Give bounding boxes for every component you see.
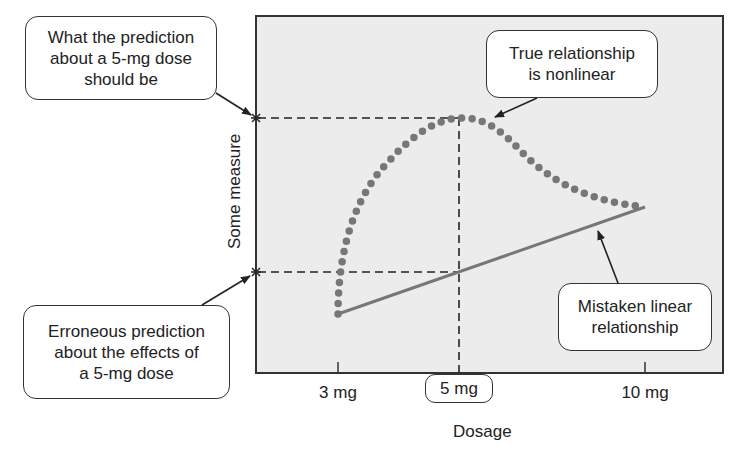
callout-line: Erroneous prediction xyxy=(24,321,229,342)
callout-line: a 5-mg dose xyxy=(24,363,229,384)
callout-line: about a 5-mg dose xyxy=(26,48,216,69)
callout-line: True relationship xyxy=(487,43,657,64)
callout-mistaken-linear: Mistaken linear relationship xyxy=(558,283,712,351)
tick-label-10mg: 10 mg xyxy=(610,383,680,403)
callout-erroneous: Erroneous prediction about the effects o… xyxy=(23,305,230,399)
tick-label-5mg: 5 mg xyxy=(425,374,493,403)
arrow-erroneous xyxy=(202,276,250,305)
x-axis-title: Dosage xyxy=(453,422,512,442)
callout-line: relationship xyxy=(559,317,711,338)
callout-line: is nonlinear xyxy=(487,64,657,85)
tick-label-3mg: 3 mg xyxy=(308,383,368,403)
arrow-should-be xyxy=(216,93,251,115)
callout-line: Mistaken linear xyxy=(559,296,711,317)
callout-should-be: What the prediction about a 5-mg dose sh… xyxy=(25,16,217,100)
callout-line: should be xyxy=(26,69,216,90)
y-axis-title: Some measure xyxy=(225,139,245,249)
callout-line: about the effects of xyxy=(24,342,229,363)
callout-line: What the prediction xyxy=(26,27,216,48)
callout-true-relationship: True relationship is nonlinear xyxy=(486,30,658,98)
